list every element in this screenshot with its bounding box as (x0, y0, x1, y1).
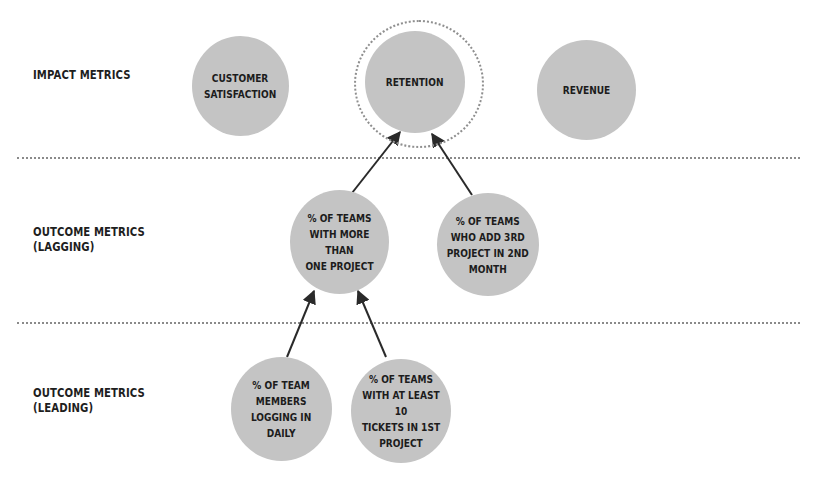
arrow-10-tickets-to-more-than-one (358, 291, 386, 357)
node-customer-satisfaction: CUSTOMER SATISFACTION (192, 36, 289, 136)
node-label: REVENUE (563, 82, 610, 98)
node-teams-10-tickets: % OF TEAMS WITH AT LEAST 10 TICKETS IN 1… (351, 359, 451, 463)
node-teams-add-3rd-project: % OF TEAMS WHO ADD 3RD PROJECT IN 2ND MO… (437, 193, 539, 296)
node-label: % OF TEAM MEMBERS LOGGING IN DAILY (251, 377, 311, 441)
node-label: % OF TEAMS WITH AT LEAST 10 TICKETS IN 1… (358, 371, 444, 451)
node-revenue: REVENUE (537, 40, 636, 140)
node-label: CUSTOMER SATISFACTION (204, 70, 276, 102)
node-label: RETENTION (386, 74, 444, 90)
node-members-logging-daily: % OF TEAM MEMBERS LOGGING IN DAILY (231, 357, 332, 461)
arrow-logging-daily-to-more-than-one (287, 291, 314, 357)
node-teams-more-than-one-project: % OF TEAMS WITH MORE THAN ONE PROJECT (290, 190, 389, 294)
node-label: % OF TEAMS WITH MORE THAN ONE PROJECT (297, 210, 382, 274)
node-label: % OF TEAMS WHO ADD 3RD PROJECT IN 2ND MO… (447, 213, 529, 277)
node-retention: RETENTION (365, 31, 465, 133)
